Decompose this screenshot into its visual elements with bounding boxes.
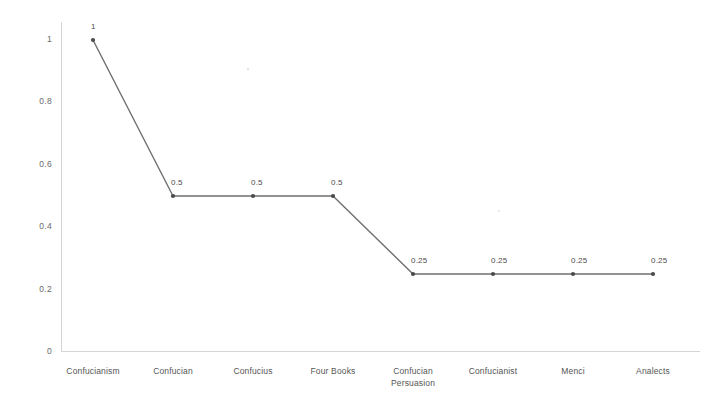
data-point-marker [251, 194, 255, 198]
data-point-value-label: 0.5 [171, 178, 183, 187]
data-point-value-label: 0.25 [571, 256, 587, 265]
data-point-markers [91, 38, 655, 276]
data-point-value-label: 0.5 [331, 178, 343, 187]
x-axis-category-label: Analects [605, 366, 701, 378]
y-axis-tick-label: 0.4 [18, 221, 52, 231]
data-point-marker [171, 194, 175, 198]
data-point-marker [651, 272, 655, 276]
data-point-value-label: 1 [91, 22, 96, 31]
chart-plot-area [0, 0, 710, 418]
data-point-value-label: 0.25 [651, 256, 667, 265]
data-point-marker [411, 272, 415, 276]
data-point-value-label: 0.25 [491, 256, 507, 265]
y-axis-tick-label: 0.6 [18, 159, 52, 169]
line-chart: 10.80.60.40.20 ConfucianismConfucianConf… [0, 0, 710, 418]
y-axis-tick-label: 1 [18, 34, 52, 44]
y-axis-tick-label: 0.8 [18, 96, 52, 106]
data-point-marker [331, 194, 335, 198]
data-point-value-label: 0.5 [251, 178, 263, 187]
data-point-value-label: 0.25 [411, 256, 427, 265]
scan-speck-icon [498, 210, 500, 212]
data-point-marker [571, 272, 575, 276]
y-axis-tick-label: 0.2 [18, 284, 52, 294]
y-axis-tick-label: 0 [18, 346, 52, 356]
data-point-marker [491, 272, 495, 276]
data-series-line [93, 40, 653, 274]
data-point-marker [91, 38, 95, 42]
scan-speck-icon [247, 68, 249, 70]
